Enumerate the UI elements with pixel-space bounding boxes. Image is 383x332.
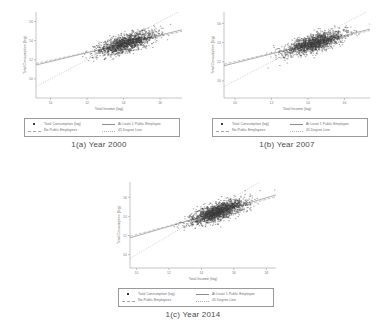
svg-text:16: 16 bbox=[232, 271, 236, 275]
legend-dotted-line-icon bbox=[196, 298, 209, 304]
legend-item-45-degree-line: 45 Degree Line bbox=[196, 298, 270, 305]
legend-marker-dot-icon bbox=[216, 121, 229, 127]
svg-text:12: 12 bbox=[123, 234, 127, 238]
legend-dashed-line-icon bbox=[122, 298, 135, 304]
legend-item-45-degree-line: 45 Degree Line bbox=[290, 128, 364, 135]
svg-text:Total Consumption (log): Total Consumption (log) bbox=[23, 36, 27, 74]
legend-item-no-public-employees: No Public Employees bbox=[28, 128, 102, 135]
legend-column-left: Total Consumption (log) No Public Employ… bbox=[122, 291, 196, 304]
svg-text:12: 12 bbox=[85, 101, 89, 105]
legend-column-right: At Least 1 Public Employee 45 Degree Lin… bbox=[102, 121, 176, 134]
legend-solid-line-icon bbox=[196, 291, 209, 297]
scatter-plot-b: 1012141610121416Total Income (log)Total … bbox=[198, 6, 376, 118]
legend-item-45-degree-line: 45 Degree Line bbox=[102, 128, 176, 135]
legend-label: 45 Degree Line bbox=[118, 128, 142, 135]
legend-column-right: At Least 1 Public Employee 45 Degree Lin… bbox=[196, 291, 270, 304]
legend-label: No Public Employees bbox=[138, 298, 171, 305]
legend-label: No Public Employees bbox=[232, 128, 265, 135]
legend-marker-dot-icon bbox=[28, 121, 41, 127]
chart-panel-b: 1012141610121416Total Income (log)Total … bbox=[198, 6, 376, 158]
svg-text:10: 10 bbox=[49, 101, 53, 105]
legend-item-no-public-employees: No Public Employees bbox=[216, 128, 290, 135]
svg-text:12: 12 bbox=[29, 58, 33, 62]
svg-text:Total Income (log): Total Income (log) bbox=[283, 107, 312, 111]
legend-label: No Public Employees bbox=[44, 128, 77, 135]
svg-text:14: 14 bbox=[306, 101, 310, 105]
chart-legend-a: Total Consumption (log) No Public Employ… bbox=[24, 118, 180, 137]
svg-text:10: 10 bbox=[29, 77, 33, 81]
chart-panel-a: 1012141610121416Total Income (log)Total … bbox=[10, 6, 188, 158]
legend-dashed-line-icon bbox=[216, 128, 229, 134]
svg-text:16: 16 bbox=[343, 101, 347, 105]
svg-text:16: 16 bbox=[158, 101, 162, 105]
svg-text:14: 14 bbox=[29, 39, 33, 43]
legend-marker-dot-icon bbox=[122, 291, 135, 297]
panel-caption-a: 1(a) Year 2000 bbox=[10, 140, 188, 149]
svg-text:10: 10 bbox=[123, 253, 127, 257]
legend-dashed-line-icon bbox=[28, 128, 41, 134]
svg-text:14: 14 bbox=[122, 101, 126, 105]
chart-legend-b: Total Consumption (log) No Public Employ… bbox=[212, 118, 368, 137]
svg-text:Total Consumption (log): Total Consumption (log) bbox=[117, 206, 121, 244]
svg-text:12: 12 bbox=[167, 271, 171, 275]
chart-panel-c: 101214161810121416Total Income (log)Tota… bbox=[104, 176, 282, 328]
figure-container: 1012141610121416Total Income (log)Total … bbox=[0, 0, 383, 332]
svg-text:16: 16 bbox=[123, 196, 127, 200]
svg-text:10: 10 bbox=[217, 79, 221, 83]
svg-text:Total Consumption (log): Total Consumption (log) bbox=[211, 36, 215, 74]
svg-text:14: 14 bbox=[217, 41, 221, 45]
svg-text:16: 16 bbox=[29, 20, 33, 24]
legend-label: 45 Degree Line bbox=[212, 298, 236, 305]
plot-area-b: 1012141610121416Total Income (log)Total … bbox=[198, 6, 376, 118]
svg-text:16: 16 bbox=[217, 22, 221, 26]
svg-text:18: 18 bbox=[264, 271, 268, 275]
svg-text:10: 10 bbox=[135, 271, 139, 275]
legend-solid-line-icon bbox=[290, 121, 303, 127]
scatter-plot-c: 101214161810121416Total Income (log)Tota… bbox=[104, 176, 282, 288]
chart-legend-c: Total Consumption (log) No Public Employ… bbox=[118, 288, 274, 307]
plot-area-a: 1012141610121416Total Income (log)Total … bbox=[10, 6, 188, 118]
svg-text:14: 14 bbox=[123, 215, 127, 219]
svg-text:12: 12 bbox=[217, 60, 221, 64]
legend-dotted-line-icon bbox=[290, 128, 303, 134]
panel-caption-c: 1(c) Year 2014 bbox=[104, 310, 282, 319]
panel-caption-b: 1(b) Year 2007 bbox=[198, 140, 376, 149]
svg-text:10: 10 bbox=[233, 101, 237, 105]
svg-text:Total Income (log): Total Income (log) bbox=[189, 277, 218, 281]
legend-label: 45 Degree Line bbox=[306, 128, 330, 135]
scatter-plot-a: 1012141610121416Total Income (log)Total … bbox=[10, 6, 188, 118]
legend-solid-line-icon bbox=[102, 121, 115, 127]
svg-text:Total Income (log): Total Income (log) bbox=[95, 107, 124, 111]
plot-area-c: 101214161810121416Total Income (log)Tota… bbox=[104, 176, 282, 288]
legend-column-left: Total Consumption (log) No Public Employ… bbox=[216, 121, 290, 134]
svg-text:14: 14 bbox=[199, 271, 203, 275]
legend-column-right: At Least 1 Public Employee 45 Degree Lin… bbox=[290, 121, 364, 134]
legend-dotted-line-icon bbox=[102, 128, 115, 134]
legend-column-left: Total Consumption (log) No Public Employ… bbox=[28, 121, 102, 134]
legend-item-no-public-employees: No Public Employees bbox=[122, 298, 196, 305]
svg-text:12: 12 bbox=[270, 101, 274, 105]
